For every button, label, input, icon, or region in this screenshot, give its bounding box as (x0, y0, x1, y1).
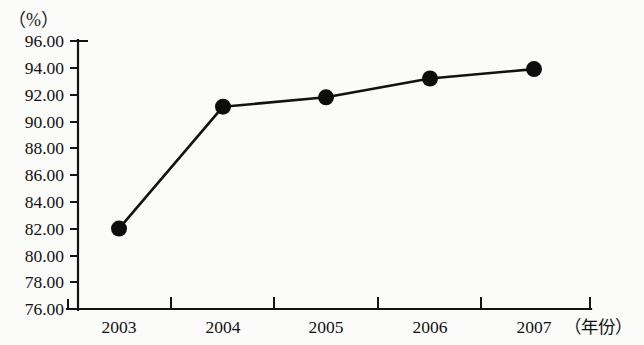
data-point-2004 (215, 99, 231, 115)
data-point-2006 (422, 71, 438, 87)
data-point-2005 (318, 89, 334, 105)
line-chart: （%） 96.00 94.00 92.00 (0, 0, 644, 345)
x-tick-label: 2006 (413, 317, 448, 337)
y-tick-label: 94.00 (25, 58, 65, 78)
y-tick-label: 84.00 (25, 192, 65, 212)
chart-background (0, 0, 644, 345)
x-tick-label: 2007 (517, 317, 552, 337)
x-tick-label: 2003 (102, 317, 137, 337)
x-axis-title: （年份） (564, 317, 632, 337)
y-tick-label: 80.00 (25, 246, 65, 266)
y-tick-label: 88.00 (25, 138, 65, 158)
y-tick-label: 78.00 (25, 272, 65, 292)
y-axis-unit-label: （%） (8, 10, 59, 30)
x-tick-label: 2004 (206, 317, 241, 337)
y-axis-tick-labels: 96.00 94.00 92.00 90.00 88.00 86.00 84.0… (25, 31, 65, 319)
y-tick-label: 90.00 (25, 112, 65, 132)
y-tick-label: 82.00 (25, 219, 65, 239)
x-tick-label: 2005 (309, 317, 344, 337)
chart-page: （%） 96.00 94.00 92.00 (0, 0, 644, 345)
y-tick-label: 86.00 (25, 165, 65, 185)
data-point-2003 (111, 221, 127, 237)
y-tick-label: 76.00 (25, 299, 65, 319)
y-tick-label: 92.00 (25, 85, 65, 105)
data-point-2007 (526, 61, 542, 77)
y-tick-label: 96.00 (25, 31, 65, 51)
